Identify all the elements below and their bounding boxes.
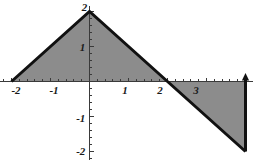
x-tick-label-pos2: 2 — [157, 85, 162, 96]
x-tick-label-neg1: -1 — [50, 85, 59, 96]
x-tick-label-neg2: -2 — [12, 85, 21, 96]
x-tick-label-pos3: 3 — [193, 85, 198, 96]
plot-canvas — [0, 0, 253, 160]
x-tick-label-pos1: 1 — [122, 85, 127, 96]
y-tick-label-pos2: 2 — [82, 2, 87, 13]
up-arrow-icon — [242, 73, 249, 81]
plot-figure: -2 -1 1 2 3 2 1 -1 -2 — [0, 0, 253, 160]
y-tick-label-pos1: 1 — [80, 42, 85, 53]
y-tick-label-neg2: -2 — [76, 146, 85, 157]
y-tick-label-neg1: -1 — [76, 113, 85, 124]
